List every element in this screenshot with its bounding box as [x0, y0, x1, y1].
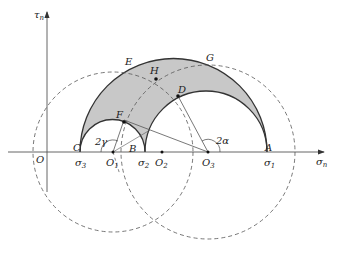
label-2alpha: 2α [216, 136, 229, 146]
label-sigma1: σ1 [264, 158, 275, 170]
label-sigma3: σ3 [75, 158, 86, 170]
point-h [154, 77, 158, 81]
label-o1: O1 [106, 158, 119, 170]
point-f [122, 120, 126, 124]
label-sigma2: σ2 [138, 158, 149, 170]
label-o3: O3 [202, 158, 215, 170]
point-o2 [161, 151, 164, 154]
tau-axis-label: τn [34, 10, 44, 22]
sigma-axis-label: σn [316, 157, 327, 169]
line-o3-f [124, 120, 208, 152]
label-f: F [116, 110, 123, 120]
mohr-circle-diagram: τn σn O E H G D F C B A 2γ 2α σ3 O1 σ2 O… [0, 0, 338, 254]
label-d: D [178, 85, 186, 95]
label-o2: O2 [155, 158, 168, 170]
label-g: G [206, 53, 214, 63]
label-2gamma: 2γ [95, 137, 107, 147]
label-b: B [129, 144, 136, 154]
point-o1 [112, 151, 115, 154]
origin-label: O [36, 155, 44, 165]
label-a: A [265, 143, 272, 153]
point-o3 [207, 151, 210, 154]
label-h: H [150, 66, 159, 76]
line-o3-d [178, 96, 208, 152]
diagram-canvas [0, 0, 338, 254]
label-c: C [73, 143, 81, 153]
label-e: E [125, 57, 132, 67]
